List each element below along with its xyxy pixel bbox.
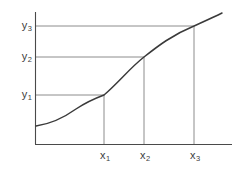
x-axis-label-x2: x2: [132, 150, 158, 161]
y-axis-label-y2: y2: [8, 51, 32, 62]
x-axis-label-x3: x3: [182, 150, 208, 161]
x-axis-label-x1: x1: [92, 150, 118, 161]
vertical-guide-lines: [104, 26, 194, 144]
y-axis-label-y3: y3: [8, 20, 32, 31]
y-axis-label-y1: y1: [8, 89, 32, 100]
sigmoid-curve-figure: y3 y2 y1 x1 x2 x3: [0, 0, 240, 173]
plot-canvas: [0, 0, 240, 173]
